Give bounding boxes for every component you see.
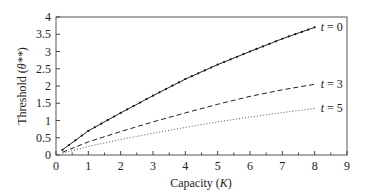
y-tick-label: 0.5 bbox=[36, 131, 51, 145]
x-tick-label: 0 bbox=[53, 159, 59, 173]
curve-label: t = 5 bbox=[321, 101, 343, 115]
curve-t0 bbox=[62, 27, 314, 149]
curve-label: t = 0 bbox=[321, 20, 343, 34]
y-tick-label: 0 bbox=[45, 148, 51, 162]
threshold-chart: 00.511.522.533.54 0123456789 t = 0t = 3t… bbox=[0, 0, 367, 196]
x-tick-label: 9 bbox=[344, 159, 350, 173]
y-tick-label: 1 bbox=[45, 114, 51, 128]
x-tick-label: 2 bbox=[118, 159, 124, 173]
x-tick-label: 5 bbox=[215, 159, 221, 173]
x-axis-ticks: 0123456789 bbox=[53, 151, 350, 173]
curve-t5 bbox=[62, 108, 314, 153]
x-tick-label: 4 bbox=[182, 159, 188, 173]
x-tick-label: 8 bbox=[312, 159, 318, 173]
y-tick-label: 2 bbox=[45, 79, 51, 93]
y-tick-label: 1.5 bbox=[36, 96, 51, 110]
y-tick-label: 3.5 bbox=[36, 27, 51, 41]
curves bbox=[61, 26, 315, 153]
curve-t3 bbox=[62, 84, 314, 152]
curve-label: t = 3 bbox=[321, 77, 343, 91]
curve-labels: t = 0t = 3t = 5 bbox=[321, 20, 343, 115]
x-tick-label: 1 bbox=[85, 159, 91, 173]
y-tick-label: 2.5 bbox=[36, 62, 51, 76]
x-tick-label: 7 bbox=[279, 159, 285, 173]
x-tick-label: 3 bbox=[150, 159, 156, 173]
x-tick-label: 6 bbox=[247, 159, 253, 173]
x-axis-label: Capacity (K) bbox=[170, 176, 232, 190]
y-tick-label: 3 bbox=[45, 45, 51, 59]
y-tick-label: 4 bbox=[45, 10, 51, 24]
y-axis-label: Threshold (θ**) bbox=[15, 47, 29, 125]
